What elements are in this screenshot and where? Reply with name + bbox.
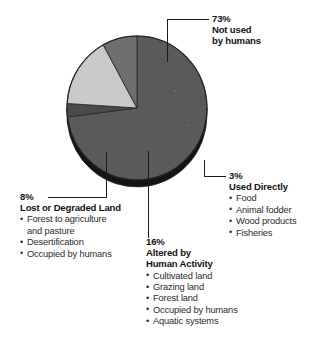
pie-chart-figure: 73% Not used by humans 3% Used Directly … bbox=[0, 0, 317, 345]
chart-area: 73% Not used by humans 3% Used Directly … bbox=[0, 0, 317, 345]
list-item: Desertification bbox=[20, 237, 121, 248]
list-item: Occupied by humans bbox=[20, 249, 121, 260]
callout-headline-line1: Used Directly bbox=[229, 181, 296, 192]
callout-percent: 73% bbox=[212, 13, 261, 24]
scan-speck bbox=[174, 90, 175, 91]
list-item: Animal fodder bbox=[229, 205, 296, 216]
list-item: Grazing land bbox=[146, 282, 238, 293]
callout-percent: 8% bbox=[20, 191, 121, 202]
list-item: Forest to agriculture bbox=[20, 214, 121, 225]
list-item: Forest land bbox=[146, 293, 238, 304]
list-item: Occupied by humans bbox=[146, 305, 238, 316]
list-item: Food bbox=[229, 193, 296, 204]
callout-headline-line1: Not used bbox=[212, 24, 261, 35]
callout-lost-degraded: 8% Lost or Degraded Land Forest to agric… bbox=[20, 191, 121, 260]
list-item: Wood products bbox=[229, 216, 296, 227]
callout-headline-line2: by humans bbox=[212, 35, 261, 46]
list-item: Fisheries bbox=[229, 228, 296, 239]
callout-used-directly: 3% Used Directly Food Animal fodder Wood… bbox=[229, 170, 296, 239]
callout-percent: 3% bbox=[229, 170, 296, 181]
scan-speck bbox=[186, 124, 187, 125]
callout-headline-line1: Lost or Degraded Land bbox=[20, 202, 121, 213]
callout-headline-line1: Altered by bbox=[146, 247, 238, 258]
callout-item-list: Forest to agriculture and pasture Desert… bbox=[20, 214, 121, 260]
list-item-continuation: and pasture bbox=[20, 226, 121, 237]
callout-altered: 16% Altered by Human Activity Cultivated… bbox=[146, 236, 238, 328]
callout-item-list: Food Animal fodder Wood products Fisheri… bbox=[229, 193, 296, 239]
callout-not-used: 73% Not used by humans bbox=[212, 13, 261, 47]
callout-headline-line2: Human Activity bbox=[146, 258, 238, 269]
callout-percent: 16% bbox=[146, 236, 238, 247]
callout-item-list: Cultivated land Grazing land Forest land… bbox=[146, 271, 238, 328]
list-item: Aquatic systems bbox=[146, 316, 238, 327]
list-item: Cultivated land bbox=[146, 271, 238, 282]
